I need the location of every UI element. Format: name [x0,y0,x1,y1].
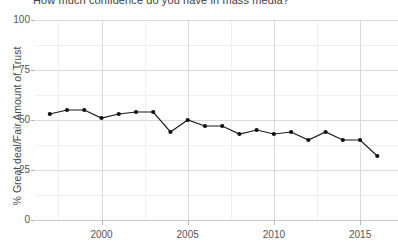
y-tick-mark [31,70,35,71]
data-point [272,132,276,136]
x-tick-mark [102,220,103,225]
data-point [151,110,155,114]
y-tick-label: 25 [4,164,30,175]
x-tick-label: 2005 [168,229,208,240]
data-point [237,132,241,136]
data-point [255,128,259,132]
data-point [117,112,121,116]
series-line [50,110,378,156]
plot-area [36,20,398,220]
data-point [375,154,379,158]
data-point [65,108,69,112]
data-point [324,130,328,134]
chart-title: How much confidence do you have in mass … [33,0,373,6]
data-point [341,138,345,142]
data-series-confidence-in-mass-media [36,20,398,220]
data-point [289,130,293,134]
y-tick-label: 100 [4,14,30,25]
y-tick-mark [31,220,35,221]
x-tick-label: 2000 [82,229,122,240]
data-point [220,124,224,128]
x-tick-mark [274,220,275,225]
data-point [306,138,310,142]
data-point [134,110,138,114]
data-point [186,118,190,122]
y-axis-title: % Great deal/Fair Amount of Trust [11,36,23,216]
chart-root: How much confidence do you have in mass … [0,0,398,248]
y-tick-label: 75 [4,64,30,75]
data-point [168,130,172,134]
y-tick-mark [31,20,35,21]
data-point [203,124,207,128]
data-point [82,108,86,112]
y-tick-label: 0 [4,214,30,225]
x-tick-mark [360,220,361,225]
x-tick-mark [188,220,189,225]
x-tick-label: 2015 [340,229,380,240]
y-tick-label: 50 [4,114,30,125]
data-point [358,138,362,142]
x-axis-line [36,220,398,221]
data-point [48,112,52,116]
y-tick-mark [31,120,35,121]
y-tick-mark [31,170,35,171]
x-tick-label: 2010 [254,229,294,240]
data-point [99,116,103,120]
